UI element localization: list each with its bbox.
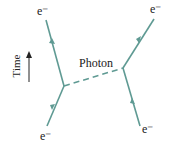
electron-label-bottom-left: e⁻ <box>40 130 51 142</box>
electron-line-top-left <box>46 20 64 86</box>
electron-line-top-right <box>123 19 154 68</box>
electron-label-top-right: e⁻ <box>150 3 161 15</box>
electron-line-bottom-left <box>47 86 64 126</box>
electron-label-top-left: e⁻ <box>37 5 48 17</box>
photon-line <box>64 68 123 86</box>
feynman-diagram: e⁻ e⁻ e⁻ e⁻ Photon Time <box>0 0 175 146</box>
electron-line-bottom-right <box>123 68 140 126</box>
photon-label: Photon <box>79 57 113 69</box>
electron-label-bottom-right: e⁻ <box>142 123 153 135</box>
arrow-icon <box>49 38 55 44</box>
time-axis-label: Time <box>10 55 22 78</box>
time-arrow-icon <box>26 51 32 58</box>
